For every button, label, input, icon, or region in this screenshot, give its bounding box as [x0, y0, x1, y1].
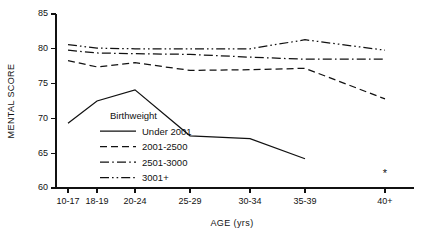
y-tick-label: 70: [38, 113, 48, 123]
x-axis: 10-1718-1920-2425-2930-3435-3940+: [56, 188, 414, 206]
x-tick-label: 40+: [377, 196, 392, 206]
y-tick-label: 75: [38, 78, 48, 88]
x-tick-label: 20-24: [123, 196, 146, 206]
y-axis: 606570758085: [38, 8, 56, 192]
x-tick-label: 35-39: [293, 196, 316, 206]
y-tick-label: 60: [38, 182, 48, 192]
y-tick-label: 80: [38, 43, 48, 53]
x-axis-ticks: 10-1718-1920-2425-2930-3435-3940+: [56, 188, 392, 206]
asterisk-marker: *: [383, 167, 388, 179]
x-axis-title: AGE (yrs): [210, 218, 253, 228]
annotations-group: *: [383, 167, 388, 179]
y-axis-ticks: 606570758085: [38, 8, 56, 192]
x-tick-label: 25-29: [178, 196, 201, 206]
mental-score-by-age-line-chart: 606570758085 10-1718-1920-2425-2930-3435…: [0, 0, 424, 234]
legend-label-3001: 3001+: [142, 172, 169, 183]
legend-label-2001-2500: 2001-2500: [142, 141, 187, 152]
chart-figure: 606570758085 10-1718-1920-2425-2930-3435…: [0, 0, 424, 234]
y-tick-label: 65: [38, 148, 48, 158]
legend-label-under-2001: Under 2001: [142, 126, 192, 137]
y-tick-label: 85: [38, 8, 48, 18]
series-line-2501-3000: [68, 50, 385, 59]
x-tick-label: 10-17: [56, 196, 79, 206]
x-tick-label: 18-19: [85, 196, 108, 206]
legend-title: Birthweight: [110, 110, 157, 121]
data-series-group: [68, 40, 385, 159]
x-tick-label: 30-34: [238, 196, 261, 206]
y-axis-title: MENTAL SCORE: [6, 64, 16, 139]
series-line-3001: [68, 40, 385, 50]
series-line-2001-2500: [68, 61, 385, 99]
legend-label-2501-3000: 2501-3000: [142, 157, 187, 168]
chart-legend: BirthweightUnder 20012001-25002501-30003…: [100, 110, 192, 183]
